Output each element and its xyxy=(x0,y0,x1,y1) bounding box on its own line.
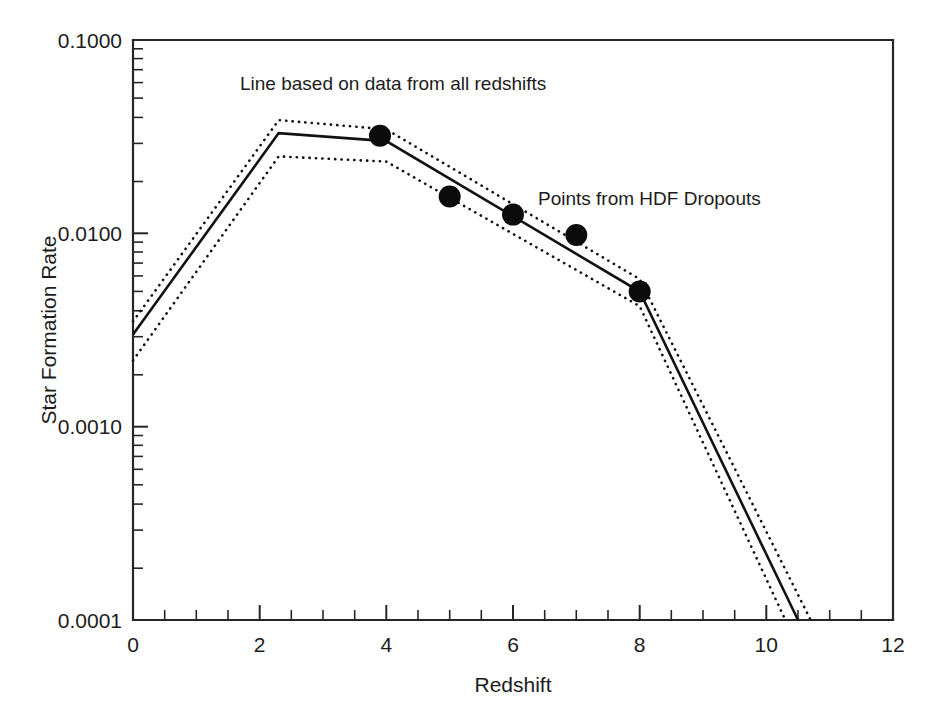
x-tick-label: 6 xyxy=(507,633,519,656)
y-tick-label: 0.1000 xyxy=(58,29,122,52)
chart-canvas: 0.1000 0.0100 0.0010 0.0001 0 2 4 6 8 10… xyxy=(0,0,935,719)
line-annotation-text: Line based on data from all redshifts xyxy=(240,73,546,94)
data-point-marker xyxy=(565,224,587,246)
data-point-marker xyxy=(439,186,461,208)
star-formation-rate-chart: 0.1000 0.0100 0.0010 0.0001 0 2 4 6 8 10… xyxy=(0,0,935,719)
plot-frame xyxy=(133,40,893,620)
y-tick-label: 0.0001 xyxy=(58,609,122,632)
axis-lines xyxy=(133,40,893,620)
y-tick-labels: 0.1000 0.0100 0.0010 0.0001 xyxy=(58,29,122,632)
x-tick-label: 10 xyxy=(755,633,778,656)
x-tick-labels: 0 2 4 6 8 10 12 xyxy=(127,633,905,656)
data-point-marker xyxy=(369,125,391,147)
x-tick-label: 0 xyxy=(127,633,139,656)
x-tick-label: 2 xyxy=(254,633,266,656)
data-points-group xyxy=(369,125,651,303)
y-tick-label: 0.0010 xyxy=(58,415,122,438)
x-tick-label: 8 xyxy=(634,633,646,656)
x-tick-label: 4 xyxy=(380,633,392,656)
x-axis-title: Redshift xyxy=(474,673,551,696)
x-tick-label: 12 xyxy=(881,633,904,656)
data-point-marker xyxy=(629,281,651,303)
points-annotation-text: Points from HDF Dropouts xyxy=(538,188,761,209)
x-axis-ticks xyxy=(133,605,893,620)
data-point-marker xyxy=(502,204,524,226)
y-axis-title: Star Formation Rate xyxy=(37,235,60,424)
y-tick-label: 0.0100 xyxy=(58,222,122,245)
